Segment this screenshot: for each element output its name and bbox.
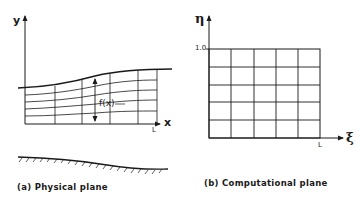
physical-plane [18,16,172,174]
eta-axis-label: η [195,12,204,25]
computational-plane-caption: (b) Computational plane [204,179,328,188]
lower-wall-curve [18,157,168,169]
xi-axis-label: ξ [346,131,354,144]
computational-plane [206,16,343,138]
computational-length-label: L [318,142,322,149]
grid-line-h4 [25,111,157,116]
height-function-label: f(x) [99,99,115,108]
grid-line-h1 [25,80,157,95]
eta-max-label: 1.0 [195,45,206,52]
x-axis-label: x [164,117,171,128]
computational-grid-border [209,49,320,138]
physical-length-label: L [152,127,156,134]
wall-hatching [19,158,162,174]
physical-plane-caption: (a) Physical plane [17,183,108,192]
grid-line-h3 [25,100,157,109]
diagram-canvas [0,0,362,204]
y-axis-label: y [13,15,20,26]
